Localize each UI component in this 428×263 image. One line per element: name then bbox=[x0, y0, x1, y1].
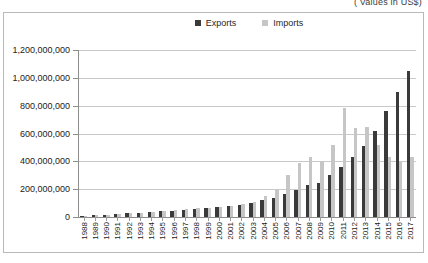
bar-imports bbox=[343, 108, 346, 217]
legend-item-exports: Exports bbox=[195, 18, 237, 28]
bar-imports bbox=[377, 145, 380, 217]
bar-imports bbox=[354, 128, 357, 217]
x-axis-label: 2010 bbox=[327, 222, 336, 240]
x-axis-label-cell: 1996 bbox=[168, 221, 179, 255]
bar-imports bbox=[196, 208, 199, 217]
x-axis-label: 1996 bbox=[169, 222, 178, 240]
x-axis-label-cell: 1994 bbox=[146, 221, 157, 255]
bar-group bbox=[348, 50, 359, 217]
x-axis-label-cell: 2013 bbox=[360, 221, 371, 255]
x-axis-label: 2017 bbox=[406, 222, 415, 240]
bar-group bbox=[371, 50, 382, 217]
bar-group bbox=[146, 50, 157, 217]
bar-imports bbox=[298, 163, 301, 217]
x-axis-label: 2007 bbox=[293, 222, 302, 240]
bar-imports bbox=[230, 206, 233, 217]
x-axis-label-cell: 1989 bbox=[89, 221, 100, 255]
legend-label-imports: Imports bbox=[273, 18, 303, 28]
x-axis-label-cell: 1992 bbox=[123, 221, 134, 255]
x-axis-label: 1995 bbox=[158, 222, 167, 240]
bar-imports bbox=[320, 161, 323, 217]
x-axis-label: 2011 bbox=[338, 222, 347, 239]
y-axis-tick bbox=[73, 189, 78, 190]
x-axis-label: 2012 bbox=[350, 222, 359, 240]
bar-group bbox=[112, 50, 123, 217]
x-axis-label-cell: 2014 bbox=[371, 221, 382, 255]
bar-imports bbox=[309, 157, 312, 217]
x-axis-label: 1991 bbox=[113, 222, 122, 240]
x-axis-label: 2008 bbox=[304, 222, 313, 240]
y-axis-tick bbox=[73, 78, 78, 79]
bar-group bbox=[157, 50, 168, 217]
y-axis-tick bbox=[73, 161, 78, 162]
bar-group bbox=[213, 50, 224, 217]
x-axis-label: 2015 bbox=[383, 222, 392, 240]
bar-group bbox=[247, 50, 258, 217]
x-axis-label: 2000 bbox=[214, 222, 223, 240]
x-axis-label: 1992 bbox=[124, 222, 133, 240]
bar-group bbox=[236, 50, 247, 217]
chart-screenshot: ( Values in US$) Exports Imports 1,200,0… bbox=[0, 0, 428, 263]
x-axis-label: 2014 bbox=[372, 222, 381, 240]
y-axis-labels: 1,200,000,0001,000,000,000800,000,000600… bbox=[0, 0, 72, 263]
x-axis-label-cell: 1995 bbox=[157, 221, 168, 255]
x-axis-label: 1997 bbox=[181, 222, 190, 240]
bar-group bbox=[168, 50, 179, 217]
bar-group bbox=[78, 50, 89, 217]
x-axis-label: 2001 bbox=[226, 222, 235, 240]
y-axis-tick bbox=[73, 50, 78, 51]
x-axis-label-cell: 2002 bbox=[236, 221, 247, 255]
bar-group bbox=[258, 50, 269, 217]
bar-group bbox=[179, 50, 190, 217]
x-axis-label-cell: 1997 bbox=[179, 221, 190, 255]
y-axis-label: 1,000,000,000 bbox=[12, 73, 70, 83]
bar-group bbox=[303, 50, 314, 217]
values-unit-caption: ( Values in US$) bbox=[354, 0, 422, 7]
x-axis-label: 2002 bbox=[237, 222, 246, 240]
bar-imports bbox=[264, 196, 267, 217]
x-axis-label: 2016 bbox=[395, 222, 404, 240]
bar-imports bbox=[241, 204, 244, 217]
legend-label-exports: Exports bbox=[206, 18, 237, 28]
bar-imports bbox=[253, 202, 256, 217]
y-axis-tick bbox=[73, 217, 78, 218]
x-axis-label-cell: 2000 bbox=[213, 221, 224, 255]
x-axis-label-cell: 2006 bbox=[281, 221, 292, 255]
x-axis-label-cell: 2001 bbox=[224, 221, 235, 255]
bar-group bbox=[101, 50, 112, 217]
bar-imports bbox=[410, 157, 413, 217]
x-axis-label-cell: 2005 bbox=[270, 221, 281, 255]
x-axis-label-cell: 2004 bbox=[258, 221, 269, 255]
y-axis-tick bbox=[73, 134, 78, 135]
bar-imports bbox=[174, 210, 177, 217]
y-axis-label: 1,200,000,000 bbox=[12, 45, 70, 55]
x-axis-label: 1989 bbox=[90, 222, 99, 240]
bar-group bbox=[326, 50, 337, 217]
x-axis-label-cell: 2007 bbox=[292, 221, 303, 255]
bar-imports bbox=[331, 145, 334, 217]
x-axis-label-cell: 2011 bbox=[337, 221, 348, 255]
x-axis-label-cell: 2017 bbox=[405, 221, 416, 255]
bar-group bbox=[315, 50, 326, 217]
x-axis-label-cell: 1998 bbox=[191, 221, 202, 255]
bar-imports bbox=[208, 208, 211, 217]
x-axis-label-cell: 2010 bbox=[326, 221, 337, 255]
x-axis-label: 2009 bbox=[316, 222, 325, 240]
x-axis-label-cell: 2009 bbox=[315, 221, 326, 255]
imports-swatch-icon bbox=[262, 20, 268, 26]
bar-groups bbox=[78, 50, 416, 217]
x-axis-label-cell: 2016 bbox=[393, 221, 404, 255]
x-axis-label-cell: 1993 bbox=[134, 221, 145, 255]
bar-group bbox=[393, 50, 404, 217]
bar-imports bbox=[365, 127, 368, 217]
x-axis-label-cell: 2003 bbox=[247, 221, 258, 255]
bar-group bbox=[337, 50, 348, 217]
bar-imports bbox=[399, 161, 402, 217]
exports-swatch-icon bbox=[195, 20, 201, 26]
x-axis-label: 1990 bbox=[102, 222, 111, 240]
bar-group bbox=[134, 50, 145, 217]
x-axis-labels: 1988198919901991199219931994199519961997… bbox=[78, 221, 416, 255]
bar-imports bbox=[275, 189, 278, 217]
x-axis-label-cell: 1988 bbox=[78, 221, 89, 255]
x-axis-label: 2003 bbox=[248, 222, 257, 240]
